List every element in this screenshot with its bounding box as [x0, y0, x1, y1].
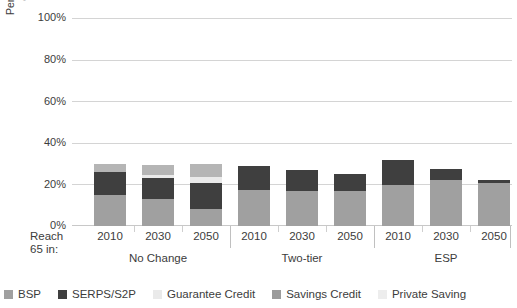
- x-group-label-esp: ESP: [386, 252, 506, 265]
- x-group-label-no-change: No Change: [98, 252, 218, 265]
- bar-segment-2-4: [190, 164, 222, 177]
- bar-segment-4-0: [286, 191, 318, 226]
- legend-label: SERPS/S2P: [72, 288, 136, 300]
- bar-segment-1-4: [142, 165, 174, 175]
- y-tick-40: 40%: [44, 137, 66, 148]
- y-tick-80: 80%: [44, 54, 66, 65]
- bar-segment-2-1: [190, 183, 222, 210]
- x-tick-label-7: 2030: [422, 230, 470, 243]
- x-group-label-two-tier: Two-tier: [242, 252, 362, 265]
- bars-layer: [72, 18, 512, 226]
- x-tick-label-3: 2010: [230, 230, 278, 243]
- y-tick-100: 100%: [38, 12, 66, 23]
- bar-segment-0-0: [94, 195, 126, 226]
- bar-segment-1-1: [142, 178, 174, 199]
- legend-swatch-icon: [378, 290, 387, 299]
- bar-7[interactable]: [430, 169, 462, 226]
- legend-label: Private Saving: [392, 288, 466, 300]
- x-tick-label-8: 2050: [470, 230, 517, 243]
- legend-label: Guarantee Credit: [167, 288, 255, 300]
- y-tick-60: 60%: [44, 96, 66, 107]
- bar-segment-5-0: [334, 191, 366, 226]
- bar-segment-5-1: [334, 174, 366, 191]
- bar-1[interactable]: [142, 165, 174, 226]
- bar-segment-7-0: [430, 180, 462, 226]
- bar-2[interactable]: [190, 164, 222, 226]
- legend-item-guarantee-credit[interactable]: Guarantee Credit: [153, 288, 255, 300]
- y-axis-tick-labels: 100% 80% 60% 40% 20% 0%: [0, 0, 72, 308]
- x-axis-corner-label-line-2: 65 in:: [30, 243, 74, 256]
- bar-segment-7-1: [430, 169, 462, 180]
- legend-item-bsp[interactable]: BSP: [4, 288, 41, 300]
- x-tick-label-1: 2030: [134, 230, 182, 243]
- bar-8[interactable]: [478, 180, 510, 226]
- bar-6[interactable]: [382, 160, 414, 226]
- bar-3[interactable]: [238, 166, 270, 226]
- legend-item-serps-s2p[interactable]: SERPS/S2P: [58, 288, 136, 300]
- bar-segment-0-4: [94, 164, 126, 172]
- bar-segment-6-0: [382, 185, 414, 226]
- pension-income-stacked-bar-chart: of median earnings at 75 Pension income …: [0, 0, 517, 308]
- y-tick-20: 20%: [44, 179, 66, 190]
- bar-segment-3-0: [238, 190, 270, 226]
- legend-swatch-icon: [153, 290, 162, 299]
- x-tick-label-0: 2010: [86, 230, 134, 243]
- bar-5[interactable]: [334, 174, 366, 226]
- bar-4[interactable]: [286, 170, 318, 226]
- x-tick-label-2: 2050: [182, 230, 230, 243]
- legend-swatch-icon: [58, 290, 67, 299]
- x-axis: 201020302050201020302050201020302050No C…: [72, 228, 512, 274]
- legend-swatch-icon: [4, 290, 13, 299]
- bar-segment-1-0: [142, 199, 174, 226]
- x-tick-label-6: 2010: [374, 230, 422, 243]
- bar-segment-0-1: [94, 172, 126, 195]
- x-axis-corner-label-line-1: Reach: [30, 230, 74, 243]
- bar-segment-6-1: [382, 160, 414, 185]
- x-tick-label-4: 2030: [278, 230, 326, 243]
- legend-label: Savings Credit: [286, 288, 361, 300]
- legend-swatch-icon: [272, 290, 281, 299]
- bar-segment-4-1: [286, 170, 318, 191]
- x-axis-corner-label: Reach 65 in:: [30, 230, 74, 256]
- x-tick-label-5: 2050: [326, 230, 374, 243]
- bar-segment-2-0: [190, 209, 222, 226]
- bar-segment-8-0: [478, 183, 510, 226]
- legend-item-savings-credit[interactable]: Savings Credit: [272, 288, 361, 300]
- bar-segment-3-1: [238, 166, 270, 190]
- legend-item-private-saving[interactable]: Private Saving: [378, 288, 466, 300]
- legend-label: BSP: [18, 288, 41, 300]
- plot-area: [72, 18, 512, 226]
- bar-0[interactable]: [94, 164, 126, 226]
- chart-legend: BSPSERPS/S2PGuarantee CreditSavings Cred…: [4, 284, 517, 304]
